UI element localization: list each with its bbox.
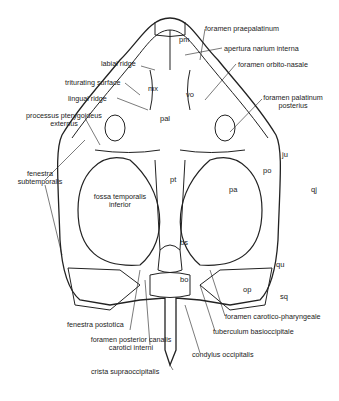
label-lingual-ridge: lingual ridge — [68, 95, 107, 103]
abbr-qu: qu — [276, 260, 284, 269]
abbr-sq: sq — [280, 292, 288, 301]
label-foramen-praepalatinum: foramen praepalatinum — [205, 25, 279, 33]
label-foramen-orbito-nasale: foramen orbito-nasale — [238, 61, 308, 69]
label-fenestra-subtemporalis: fenestra subtemporalis — [15, 170, 65, 186]
abbr-op: op — [243, 285, 251, 294]
label-apertura-narium-interna: apertura narium interna — [224, 45, 299, 53]
skull-diagram: labial ridge triturating surface lingual… — [0, 0, 339, 401]
label-fossa-temporalis: fossa temporalis inferior — [90, 193, 150, 209]
label-labial-ridge: labial ridge — [101, 60, 136, 68]
label-foramen-palatinum-line2: posterius — [260, 102, 326, 110]
abbr-po: po — [263, 166, 271, 175]
abbr-mx: mx — [148, 84, 158, 93]
label-foramen-posterior-line2: carotici interni — [88, 344, 174, 352]
abbr-pm: pm — [179, 35, 189, 44]
label-triturating-surface: triturating surface — [65, 79, 121, 87]
abbr-bo: bo — [180, 275, 188, 284]
abbr-bs: bs — [180, 238, 188, 247]
label-crista-supraoccipitalis: crista supraoccipitalis — [91, 368, 159, 376]
label-foramen-posterior-canalis: foramen posterior canalis carotici inter… — [88, 336, 174, 352]
label-fenestra-line2: subtemporalis — [15, 178, 65, 186]
label-processus-line2: externus — [24, 120, 104, 128]
label-fossa-line2: inferior — [90, 201, 150, 209]
label-processus-pterygoideus: processus pterygoideus externus — [24, 112, 104, 128]
abbr-qj: qj — [311, 185, 317, 194]
label-fenestra-postotica: fenestra postotica — [67, 321, 124, 329]
label-foramen-palatinum-posterius: foramen palatinum posterius — [260, 94, 326, 110]
label-foramen-carotico-pharyngeale: foramen carotico-pharyngeale — [225, 313, 321, 321]
label-tuberculum-basioccipitale: tuberculum basioccipitale — [213, 328, 294, 336]
abbr-ju: ju — [282, 150, 288, 159]
abbr-pal: pal — [160, 114, 170, 123]
abbr-pa: pa — [229, 185, 237, 194]
label-condylus-occipitalis: condylus occipitalis — [192, 351, 254, 359]
abbr-vo: vo — [186, 90, 194, 99]
abbr-pt: pt — [170, 175, 176, 184]
